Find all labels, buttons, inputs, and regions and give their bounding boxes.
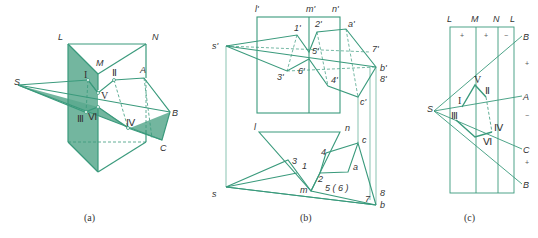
label-2: 2: [317, 174, 323, 184]
label-s: s: [212, 189, 217, 199]
label-m: m: [300, 185, 308, 195]
label-l: l: [254, 122, 257, 132]
label-5-6: 5 ( 6 ): [325, 183, 349, 193]
label-VI: Ⅵ: [483, 136, 492, 147]
caption-a: (a): [84, 212, 95, 223]
label-l-prime: l': [255, 4, 259, 14]
label-3-prime: 3': [277, 72, 284, 82]
label-M: M: [96, 58, 104, 68]
label-7-prime: 7': [372, 44, 379, 54]
label-top-L2: L: [510, 14, 515, 24]
label-c: c: [362, 135, 367, 145]
label-top-M: M: [471, 14, 479, 24]
label-8-prime: 8': [380, 74, 387, 84]
label-N: N: [152, 32, 159, 42]
label-b: b: [380, 200, 385, 210]
label-II: Ⅱ: [485, 85, 490, 96]
label-A: A: [139, 65, 146, 75]
orthographic-projection: l' m' n' s' a' b' c' 1' 2' 3' 4' 5' 6' 7…: [210, 0, 410, 238]
label-IV: Ⅳ: [126, 117, 136, 128]
label-m-prime: m': [306, 4, 315, 14]
unfolded-development: L M N L + + − + − + B A C B S I Ⅱ Ⅲ Ⅳ V …: [410, 0, 538, 238]
label-n-prime: n': [332, 4, 339, 14]
label-IV: Ⅳ: [494, 122, 504, 133]
label-6-prime: 6': [298, 66, 305, 76]
label-4: 4: [321, 147, 326, 157]
label-2-prime: 2': [314, 19, 322, 29]
label-a: a: [353, 162, 358, 172]
label-8: 8: [380, 188, 385, 198]
label-S: S: [427, 104, 433, 114]
caption-c: (c): [464, 212, 475, 223]
label-n: n: [345, 123, 350, 133]
label-III: Ⅲ: [451, 110, 458, 121]
label-II: Ⅱ: [112, 67, 117, 78]
label-1-prime: 1': [294, 23, 301, 33]
sign-right-2: −: [525, 112, 529, 119]
label-c-prime: c': [360, 97, 367, 107]
label-V: V: [474, 74, 482, 85]
label-top-N: N: [493, 14, 500, 24]
panel-b: l' m' n' s' a' b' c' 1' 2' 3' 4' 5' 6' 7…: [210, 0, 410, 238]
label-B-bottom: B: [523, 180, 529, 190]
label-s-prime: s': [212, 41, 219, 51]
label-III: Ⅲ: [77, 113, 84, 124]
label-VI: Ⅵ: [88, 111, 97, 122]
sign-right-1: +: [525, 60, 529, 67]
label-a-prime: a': [348, 19, 355, 29]
label-C: C: [160, 143, 167, 153]
label-5-prime: 5': [312, 46, 319, 56]
caption-b: (b): [300, 212, 312, 223]
sign-strip-1: +: [460, 32, 464, 39]
label-V: V: [101, 90, 109, 101]
label-A: A: [522, 92, 529, 102]
label-4-prime: 4': [331, 75, 338, 85]
label-L: L: [58, 32, 63, 42]
label-1: 1: [302, 161, 307, 171]
sign-right-3: +: [525, 159, 529, 166]
sign-strip-3: −: [504, 32, 508, 39]
panel-a: L M N S A B C I Ⅱ Ⅲ Ⅳ V Ⅵ (a): [0, 0, 180, 238]
prism-pyramid-3d-figure: L M N S A B C I Ⅱ Ⅲ Ⅳ V Ⅵ: [0, 0, 180, 238]
label-b-prime: b': [380, 63, 387, 73]
label-C: C: [523, 145, 530, 155]
panel-c: L M N L + + − + − + B A C B S I Ⅱ Ⅲ Ⅳ V …: [410, 0, 538, 238]
label-I: I: [458, 95, 461, 106]
label-B-top: B: [523, 32, 529, 42]
label-top-L1: L: [447, 14, 452, 24]
label-I: I: [84, 69, 87, 80]
label-B: B: [172, 108, 178, 118]
label-S: S: [14, 77, 20, 87]
label-3: 3: [292, 156, 297, 166]
sign-strip-2: +: [484, 32, 488, 39]
